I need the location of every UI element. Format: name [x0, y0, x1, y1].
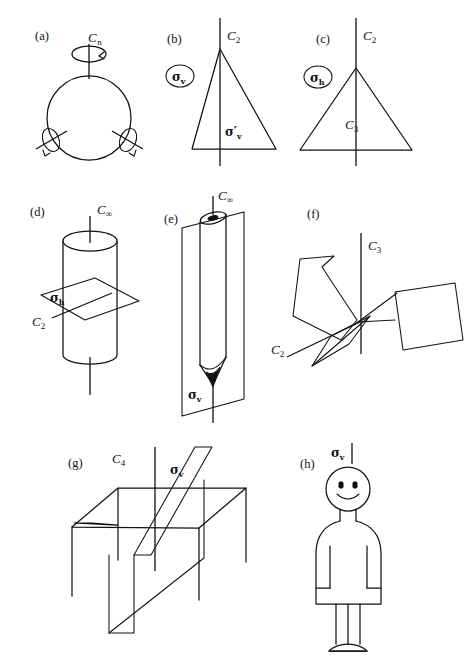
sigma-v-base: σ: [170, 463, 179, 477]
panel-d-tag: (d): [30, 205, 45, 219]
c2-sub: 2: [41, 321, 46, 331]
c2-base: C: [227, 28, 236, 43]
cinf-base: C: [218, 188, 227, 203]
c3-base: C: [368, 238, 377, 253]
sigma-v-plane-lower-edges: [109, 480, 204, 633]
panel-g: (g) C4 σv: [68, 447, 246, 633]
pencil-cone-shoulder-curve: [200, 357, 226, 369]
panel-g-sigma-v-label: σv: [170, 463, 184, 479]
c3-sub: 3: [377, 245, 382, 255]
panel-h-tag: (h): [300, 457, 315, 471]
sigma-h-base: σ: [310, 71, 319, 85]
panel-b-c2-label: C2: [227, 28, 240, 45]
cn-sub: n: [97, 37, 102, 47]
c2-sub: 2: [236, 35, 241, 45]
panel-f: (f) C3 C2: [271, 207, 463, 366]
panel-c: (c) C2 σh C3: [300, 18, 412, 166]
sigma-v-base: σ: [331, 446, 340, 460]
smile-icon: [337, 494, 359, 499]
panel-h-sigma-v-label: σv: [331, 446, 345, 462]
sigma-v-sub: v: [196, 394, 202, 404]
panel-c-sigma-h-label: σh: [310, 71, 325, 87]
sphere-outline: [47, 76, 131, 160]
c3-base: C: [345, 117, 354, 132]
panel-e-sigma-v-label: σv: [188, 388, 202, 404]
left-eye-icon: [339, 482, 343, 488]
c3-sub: 3: [354, 124, 359, 134]
svg-text:Cn: Cn: [88, 30, 102, 47]
sigma-v-plane-lower-left: [109, 555, 134, 633]
c2-base: C: [363, 28, 372, 43]
panel-c-tag: (c): [316, 32, 330, 46]
cinf-sub: ∞: [227, 195, 233, 205]
feet-outline: [329, 644, 367, 651]
panel-f-c3-label: C3: [368, 238, 382, 255]
tabletop-surface: [72, 488, 246, 528]
sigma-h-sub: h: [319, 77, 325, 87]
panel-b: (b) C2 σv σ′v: [166, 18, 276, 166]
right-eye-icon: [353, 482, 357, 488]
propeller-blade-right: [395, 283, 463, 350]
sigma-v-prime-base: σ′: [225, 125, 237, 139]
panel-e-cinf-label: C∞: [218, 188, 233, 205]
panel-c-c2-label: C2: [363, 28, 376, 45]
panel-b-sigma-v-label: σv: [172, 70, 186, 86]
panel-f-tag: (f): [307, 207, 320, 221]
cn-base: C: [88, 30, 97, 45]
c2-axis-line: [287, 322, 360, 357]
c4-sub: 4: [121, 458, 126, 468]
legs-lines: [336, 604, 360, 644]
sigma-v-sub: v: [178, 469, 184, 479]
sigma-h-base: σ: [50, 291, 59, 305]
sigma-v-base: σ: [188, 388, 197, 402]
panel-e-tag: (e): [164, 212, 178, 226]
c2-base: C: [271, 342, 280, 357]
panel-g-tag: (g): [68, 456, 83, 470]
propeller-strut-right: [358, 293, 397, 322]
panel-a-cn-label: Cn: [88, 30, 102, 47]
panel-c-sigma-h-circled: σh: [304, 66, 332, 88]
panel-b-tag: (b): [167, 32, 182, 46]
sigma-v-prime-sub: v: [236, 131, 242, 141]
torso-coat-outline: [316, 521, 381, 604]
panel-d-c2-label: C2: [32, 314, 45, 331]
cinf-base: C: [97, 202, 106, 217]
pencil-body-sides: [200, 214, 226, 365]
pencil-top-inner-dot: [208, 215, 219, 222]
symmetry-elements-figure: (a) Cn (b): [0, 0, 467, 658]
panel-b-sigma-v-circled: σv: [166, 65, 194, 87]
panel-d: (d) C∞ σh C2: [30, 202, 139, 395]
c4-base: C: [112, 451, 121, 466]
sigma-v-base: σ: [172, 70, 181, 84]
panel-g-c4-label: C4: [112, 451, 126, 468]
neck: [340, 510, 356, 521]
panel-b-sigma-v-prime-label: σ′v: [225, 125, 242, 141]
cinf-sub: ∞: [106, 209, 112, 219]
panel-f-c2-label: C2: [271, 342, 284, 359]
sigma-v-sub: v: [339, 452, 345, 462]
sigma-v-sub: v: [180, 76, 186, 86]
c2-sub: 2: [280, 349, 285, 359]
panel-e: (e) C∞ σv: [164, 188, 244, 423]
panel-h: (h) σv: [300, 443, 381, 651]
secondary-axis-right: [112, 126, 143, 156]
sigma-h-sub: h: [59, 297, 65, 307]
panel-d-cinf-label: C∞: [97, 202, 112, 219]
secondary-axis-left: [36, 126, 67, 156]
secondary-axis-left-arrowhead-icon: [43, 150, 50, 156]
panel-a: (a) Cn: [35, 29, 143, 160]
head-outline: [326, 467, 370, 511]
secondary-axis-right-arrowhead-icon: [129, 150, 136, 156]
c2-base: C: [32, 314, 41, 329]
c2-sub: 2: [372, 35, 377, 45]
pencil-graphite-tip: [206, 367, 220, 387]
cn-rotation-arrowhead-icon: [99, 52, 104, 59]
panel-a-tag: (a): [35, 29, 49, 43]
secondary-axis-left-line: [36, 131, 67, 149]
tabletop-shim: [74, 523, 118, 525]
